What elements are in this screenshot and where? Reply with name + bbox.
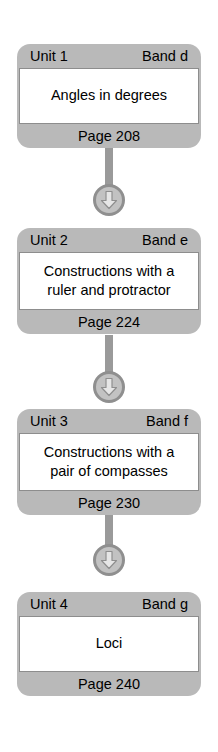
page-label: Page 208 [78,129,140,144]
flow-connector-2 [0,335,218,415]
unit-card-2-body-inner: Constructions with a ruler and protracto… [19,253,199,309]
unit-card-3-footer: Page 230 [17,491,201,515]
page-label: Page 240 [78,677,140,692]
unit-card-1-header: Unit 1 Band d [17,44,201,68]
band-label: Band f [146,414,188,429]
unit-label: Unit 4 [30,597,68,612]
unit-card-2-header: Unit 2 Band e [17,228,201,252]
down-arrow-glyph-icon [100,191,118,210]
unit-card-2[interactable]: Unit 2 Band e Constructions with a ruler… [17,228,201,334]
unit-card-3-header: Unit 3 Band f [17,409,201,433]
band-label: Band d [142,49,188,64]
unit-card-4-body-inner: Loci [19,617,199,671]
unit-title: Constructions with a ruler and protracto… [38,262,181,300]
unit-card-1-body-inner: Angles in degrees [19,69,199,123]
page-label: Page 230 [78,496,140,511]
down-arrow-glyph-icon [100,551,118,570]
unit-card-1-footer: Page 208 [17,124,201,148]
unit-card-2-footer: Page 224 [17,310,201,334]
unit-title: Angles in degrees [45,86,173,105]
unit-card-4-body: Loci [19,616,199,672]
unit-title: Loci [90,634,129,653]
down-arrow-circle-icon [93,184,125,216]
unit-title-line-2: ruler and protractor [47,282,170,298]
unit-card-3-body: Constructions with a pair of compasses [19,433,199,491]
down-arrow-circle-icon [93,371,125,403]
unit-card-3[interactable]: Unit 3 Band f Constructions with a pair … [17,409,201,515]
unit-card-1-body: Angles in degrees [19,68,199,124]
unit-title-line-1: Constructions with a [44,263,175,279]
unit-card-3-body-inner: Constructions with a pair of compasses [19,434,199,490]
connector-stem [105,335,113,375]
unit-title-line-2: pair of compasses [50,463,168,479]
flow-connector-1 [0,148,218,228]
unit-flow-diagram: Unit 1 Band d Angles in degrees Page 208… [0,0,218,752]
unit-label: Unit 3 [30,414,68,429]
down-arrow-circle-icon [93,544,125,576]
unit-label: Unit 1 [30,49,68,64]
page-label: Page 224 [78,315,140,330]
down-arrow-glyph-icon [100,378,118,397]
unit-title-line-1: Constructions with a [44,444,175,460]
band-label: Band e [142,233,188,248]
unit-title: Constructions with a pair of compasses [38,443,181,481]
unit-card-4-header: Unit 4 Band g [17,592,201,616]
connector-stem [105,148,113,188]
unit-card-2-body: Constructions with a ruler and protracto… [19,252,199,310]
unit-label: Unit 2 [30,233,68,248]
band-label: Band g [142,597,188,612]
unit-card-1[interactable]: Unit 1 Band d Angles in degrees Page 208 [17,44,201,148]
unit-card-4-footer: Page 240 [17,672,201,696]
unit-card-4[interactable]: Unit 4 Band g Loci Page 240 [17,592,201,696]
